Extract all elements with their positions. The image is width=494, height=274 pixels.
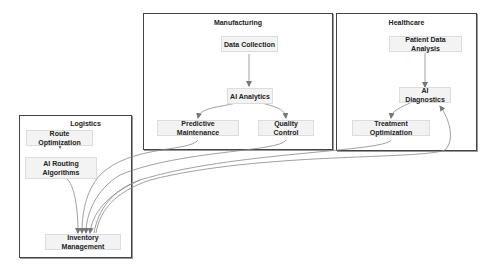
node-ai-routing-algorithms[interactable]: AI Routing Algorithms	[25, 157, 97, 179]
node-data-collection[interactable]: Data Collection	[221, 36, 278, 52]
cluster-title-manufacturing: Manufacturing	[144, 19, 332, 26]
node-route-optimization[interactable]: Route Optimization	[26, 130, 93, 146]
node-inventory-management[interactable]: Inventory Management	[45, 234, 121, 250]
node-ai-diagnostics[interactable]: AI Diagnostics	[399, 87, 451, 103]
node-patient-data-analysis[interactable]: Patient Data Analysis	[389, 36, 462, 52]
node-predictive-maintenance[interactable]: Predictive Maintenance	[157, 120, 239, 136]
cluster-title-healthcare: Healthcare	[337, 19, 476, 26]
node-ai-analytics[interactable]: AI Analytics	[227, 88, 273, 104]
cluster-title-logistics: Logistics	[40, 120, 131, 127]
edge-treatment-inventory	[90, 140, 391, 233]
node-quality-control[interactable]: Quality Control	[258, 120, 314, 136]
node-treatment-optimization[interactable]: Treatment Optimization	[352, 120, 430, 136]
